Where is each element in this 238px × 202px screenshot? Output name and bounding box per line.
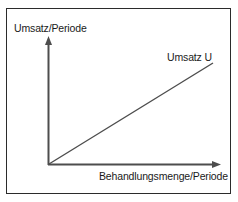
diagram-figure: Umsatz/Periode Behandlungsmenge/Periode … <box>0 0 238 202</box>
series-label-umsatz-u: Umsatz U <box>167 51 212 63</box>
revenue-line-series <box>49 63 213 164</box>
y-axis <box>45 36 52 165</box>
x-axis <box>48 161 221 168</box>
x-axis-label: Behandlungsmenge/Periode <box>99 170 228 182</box>
y-axis-label: Umsatz/Periode <box>14 22 87 34</box>
